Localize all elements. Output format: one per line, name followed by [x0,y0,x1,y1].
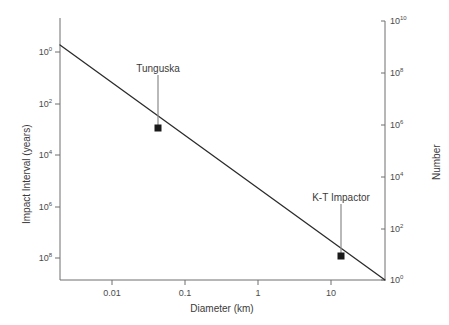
y-axis-right-tick-label-1: 108 [390,69,403,78]
tick-mantissa: 10 [39,150,49,160]
plot-area [0,0,449,325]
data-line-impact-interval [60,45,385,280]
tick-exponent: 10 [400,15,407,21]
y-axis-right-tick-label-5: 100 [390,276,403,285]
annotation-label-kt-impactor: K-T Impactor [312,193,370,203]
y-axis-right-tick-label-2: 106 [390,121,403,130]
tick-exponent: 8 [49,252,52,258]
tick-exponent: 4 [400,171,403,177]
tick-mantissa: 10 [39,99,49,109]
y-axis-right-tick-label-4: 102 [390,225,403,234]
tunguska-marker [155,125,162,132]
tick-mantissa: 10 [39,253,49,263]
y-axis-right-tick-label-0: 1010 [390,17,407,26]
y-axis-left-ticks [55,52,60,258]
x-axis-tick-label-2: 1 [255,289,260,298]
y-axis-right-ticks [381,21,385,280]
tick-mantissa: 10 [39,202,49,212]
tick-exponent: 0 [49,46,52,52]
x-axis-tick-label-0: 0.01 [103,289,121,298]
tick-mantissa: 10 [390,224,400,234]
x-axis-tick-label-1: 0.1 [179,289,192,298]
x-axis-tick-label-3: 10 [326,289,336,298]
tick-mantissa: 10 [390,275,400,285]
kt-impactor-marker [338,253,345,260]
tick-exponent: 8 [400,67,403,73]
tick-mantissa: 10 [390,16,400,26]
annotation-label-tunguska: Tunguska [136,64,180,74]
impact-interval-chart: 100 102 104 106 108 1010 108 106 104 102… [0,0,449,325]
tick-exponent: 4 [49,149,52,155]
tick-exponent: 2 [49,98,52,104]
y-axis-left-tick-label-0: 100 [26,48,52,57]
tick-mantissa: 10 [390,68,400,78]
y-axis-left-title: Impact Interval (years) [22,125,32,224]
tick-mantissa: 10 [39,47,49,57]
x-axis-ticks [112,280,331,285]
tick-exponent: 6 [400,119,403,125]
tick-exponent: 6 [49,201,52,207]
tick-exponent: 2 [400,223,403,229]
y-axis-right-tick-label-3: 104 [390,173,403,182]
tick-exponent: 0 [400,274,403,280]
y-axis-left-tick-label-1: 102 [26,100,52,109]
tick-mantissa: 10 [390,172,400,182]
y-axis-left-tick-label-4: 108 [26,254,52,263]
tick-mantissa: 10 [390,120,400,130]
y-axis-right-title: Number [432,144,442,180]
x-axis-title: Diameter (km) [190,304,253,314]
